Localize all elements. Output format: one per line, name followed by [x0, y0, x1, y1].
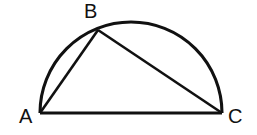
vertex-label-b: B	[84, 1, 97, 21]
geometry-figure: A B C	[0, 0, 257, 135]
semicircle-arc	[40, 22, 222, 113]
vertex-label-a: A	[19, 106, 32, 126]
chord-segment-bc	[98, 30, 222, 113]
vertex-label-c: C	[228, 106, 242, 126]
semicircle-diagram	[0, 0, 257, 135]
